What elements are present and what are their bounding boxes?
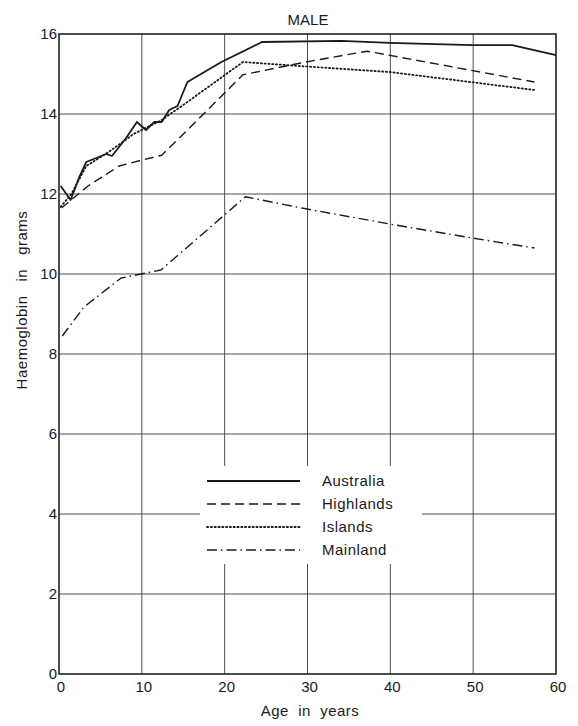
legend-label: Australia	[322, 472, 385, 489]
legend-label: Mainland	[322, 541, 387, 558]
y-tick-label: 12	[40, 185, 57, 202]
x-axis-ticks: 0102030405060	[57, 678, 567, 695]
x-tick-label: 30	[301, 678, 318, 695]
x-tick-label: 10	[135, 678, 152, 695]
x-tick-label: 20	[218, 678, 235, 695]
grid-lines	[59, 34, 556, 674]
y-tick-label: 8	[49, 345, 57, 362]
y-tick-label: 10	[40, 265, 57, 282]
legend-label: Islands	[322, 518, 373, 535]
legend: AustraliaHighlandsIslandsMainland	[200, 466, 422, 564]
legend-label: Highlands	[322, 495, 393, 512]
x-tick-label: 40	[384, 678, 401, 695]
y-axis-title: Haemoglobin in grams	[13, 211, 30, 390]
y-axis-ticks: 0246810121416	[40, 25, 57, 682]
haemoglobin-line-chart: MALE 0246810121416 0102030405060 Haemogl…	[0, 0, 578, 726]
y-tick-label: 6	[49, 425, 57, 442]
y-tick-label: 0	[49, 665, 57, 682]
data-series	[61, 41, 556, 336]
series-australia	[61, 41, 556, 200]
y-tick-label: 4	[49, 505, 57, 522]
x-axis-title: Age in years	[261, 702, 360, 719]
y-tick-label: 14	[40, 105, 57, 122]
chart-title: MALE	[288, 11, 329, 28]
y-tick-label: 2	[49, 585, 57, 602]
x-tick-label: 60	[550, 678, 567, 695]
x-tick-label: 0	[57, 678, 65, 695]
series-mainland	[62, 197, 534, 336]
y-tick-label: 16	[40, 25, 57, 42]
x-tick-label: 50	[467, 678, 484, 695]
series-islands	[61, 62, 535, 207]
